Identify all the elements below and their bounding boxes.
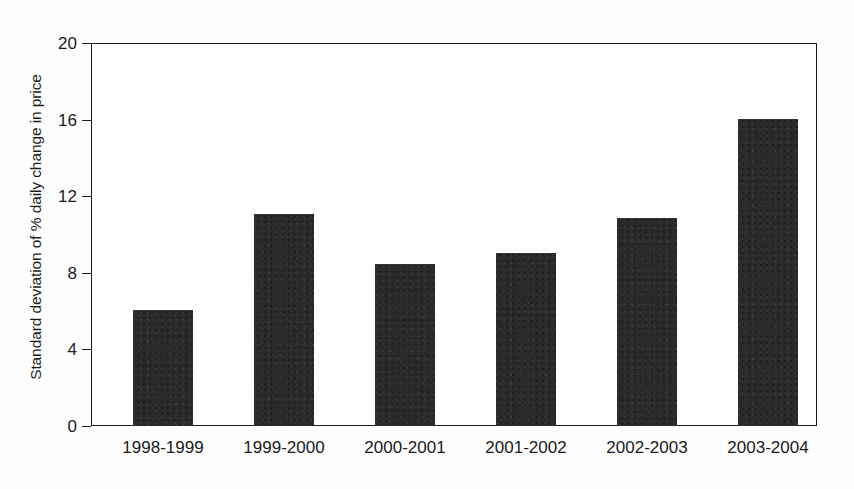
x-tick-label-2000-2001: 2000-2001 — [345, 438, 465, 458]
y-tick-label: 12 — [33, 188, 77, 205]
bars-layer — [91, 43, 817, 426]
bar-1998-1999 — [133, 310, 193, 426]
x-tick-label-1998-1999: 1998-1999 — [103, 438, 223, 458]
bar-2000-2001 — [375, 264, 435, 426]
y-tick-mark — [82, 426, 91, 427]
bar-chart-figure: Standard deviation of % daily change in … — [0, 0, 854, 489]
y-tick-label: 20 — [33, 35, 77, 52]
x-tick-label-2003-2004: 2003-2004 — [708, 438, 828, 458]
bar-2003-2004 — [738, 119, 798, 426]
y-tick-mark — [82, 273, 91, 274]
y-tick-label: 0 — [33, 418, 77, 435]
bar-1999-2000 — [254, 214, 314, 426]
y-tick-label: 4 — [33, 341, 77, 358]
bar-2002-2003 — [617, 218, 677, 426]
y-tick-mark — [82, 196, 91, 197]
y-tick-label: 8 — [33, 264, 77, 281]
x-tick-label-2001-2002: 2001-2002 — [466, 438, 586, 458]
bar-2001-2002 — [496, 253, 556, 426]
y-tick-mark — [82, 349, 91, 350]
x-axis-labels: 1998-19991999-20002000-20012001-20022002… — [91, 438, 817, 464]
y-axis-title: Standard deviation of % daily change in … — [14, 12, 58, 442]
y-tick-mark — [82, 120, 91, 121]
x-tick-label-1999-2000: 1999-2000 — [224, 438, 344, 458]
x-tick-label-2002-2003: 2002-2003 — [587, 438, 707, 458]
y-tick-label: 16 — [33, 111, 77, 128]
y-tick-mark — [82, 43, 91, 44]
